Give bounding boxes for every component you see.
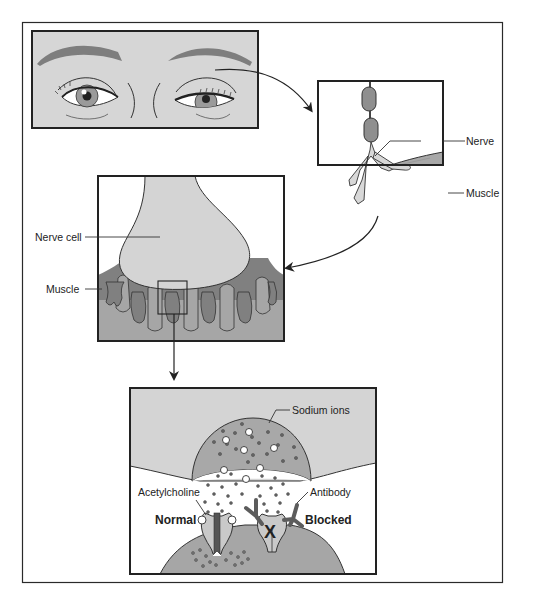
label-sodium-ions: Sodium ions <box>292 404 350 416</box>
label-nerve-cell: Nerve cell <box>35 231 82 243</box>
label-nerve: Nerve <box>466 135 494 147</box>
nerve-segment-icon <box>362 87 376 111</box>
label-blocked: Blocked <box>305 513 352 527</box>
eyes-panel <box>32 31 258 128</box>
label-normal: Normal <box>155 513 196 527</box>
receptor-panel: X Sodium ions Acetylcholine Antibody Nor… <box>130 388 376 574</box>
label-muscle-junction: Muscle <box>46 283 79 295</box>
label-acetylcholine: Acetylcholine <box>138 486 200 498</box>
label-antibody: Antibody <box>310 486 352 498</box>
nerve-segment-icon <box>364 118 378 142</box>
label-muscle-top: Muscle <box>466 187 499 199</box>
blocked-x-marker: X <box>264 522 276 542</box>
myasthenia-diagram: Nerve Muscle <box>0 0 537 599</box>
